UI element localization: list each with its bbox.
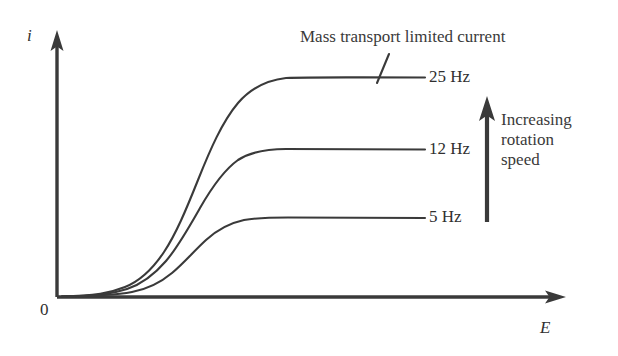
figure-canvas: i E 0 25 Hz 12 Hz 5 Hz Mass transport li… — [0, 0, 618, 356]
caption-line-2: rotation — [501, 130, 572, 150]
x-axis-label: E — [540, 318, 550, 338]
increasing-rotation-arrow — [479, 96, 495, 222]
curve-12hz — [62, 149, 425, 297]
plateau-note-leader-line — [377, 54, 389, 83]
increasing-rotation-speed-caption: Increasing rotation speed — [501, 110, 572, 170]
series-label-25hz: 25 Hz — [429, 67, 470, 87]
caption-line-3: speed — [501, 150, 572, 170]
voltammogram-plot — [0, 0, 618, 356]
y-axis-label: i — [27, 26, 32, 46]
curves-group — [62, 77, 425, 296]
curve-5hz — [62, 218, 425, 297]
mass-transport-annotation: Mass transport limited current — [300, 27, 505, 47]
origin-label: 0 — [40, 300, 49, 320]
caption-line-1: Increasing — [501, 110, 572, 130]
series-label-5hz: 5 Hz — [429, 207, 462, 227]
curve-25hz — [62, 77, 425, 296]
series-label-12hz: 12 Hz — [429, 139, 470, 159]
